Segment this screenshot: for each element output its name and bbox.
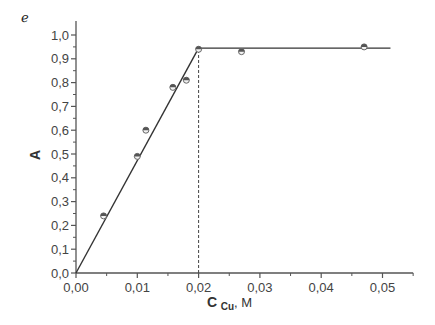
fit-line bbox=[76, 48, 199, 273]
y-tick-label: 0,3 bbox=[51, 194, 69, 209]
x-axis-label-main: C bbox=[207, 294, 217, 310]
x-axis-label: C Cu, M bbox=[207, 294, 252, 312]
x-tick-label: 0,04 bbox=[309, 280, 334, 295]
y-tick-label: 0,6 bbox=[51, 123, 69, 138]
x-tick-label: 0,01 bbox=[125, 280, 150, 295]
x-axis-label-sub: Cu bbox=[221, 301, 234, 312]
y-tick-label: 0,0 bbox=[51, 266, 69, 281]
y-tick-label: 0,1 bbox=[51, 242, 69, 257]
x-tick-label: 0,05 bbox=[370, 280, 395, 295]
y-tick-label: 0,5 bbox=[51, 147, 69, 162]
y-axis-label: A bbox=[27, 150, 43, 160]
y-tick-label: 0,4 bbox=[51, 170, 69, 185]
y-tick-label: 0,2 bbox=[51, 218, 69, 233]
y-tick-label: 1,0 bbox=[51, 28, 69, 43]
chart-canvas: 0,00,10,20,30,40,50,60,70,80,91,00,000,0… bbox=[0, 0, 435, 325]
x-tick-label: 0,02 bbox=[186, 280, 211, 295]
x-tick-label: 0,03 bbox=[247, 280, 272, 295]
x-tick-label: 0,00 bbox=[63, 280, 88, 295]
y-tick-label: 0,7 bbox=[51, 99, 69, 114]
y-tick-label: 0,9 bbox=[51, 51, 69, 66]
y-tick-label: 0,8 bbox=[51, 75, 69, 90]
x-axis-label-unit: , M bbox=[234, 295, 252, 310]
